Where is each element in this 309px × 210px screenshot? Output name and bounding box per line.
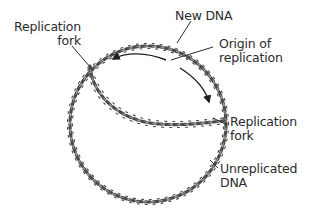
label-replication-fork-right-line2: fork (230, 129, 297, 143)
label-origin-of-replication: Origin of replication (219, 37, 283, 65)
label-unreplicated-dna-line2: DNA (220, 176, 297, 190)
leftward-replication-arrow (113, 54, 166, 60)
leader-lines (72, 21, 227, 168)
label-unreplicated-dna: Unreplicated DNA (220, 162, 297, 190)
label-replication-fork-left-line2: fork (7, 34, 81, 48)
label-new-dna-line1: New DNA (175, 9, 232, 23)
rightward-replication-arrow (180, 68, 209, 102)
label-replication-fork-right-line1: Replication (230, 115, 297, 129)
label-origin-line1: Origin of (219, 37, 283, 51)
label-replication-fork-right: Replication fork (230, 115, 297, 143)
leader-line-new-dna (177, 21, 191, 43)
replication-bubble-new-dna (88, 65, 224, 128)
leader-line-replication-fork-left (72, 46, 91, 68)
label-unreplicated-dna-line1: Unreplicated (220, 162, 297, 176)
label-new-dna: New DNA (175, 9, 232, 23)
label-replication-fork-left-line1: Replication (7, 20, 81, 34)
label-origin-line2: replication (219, 51, 283, 65)
label-replication-fork-left: Replication fork (7, 20, 81, 48)
